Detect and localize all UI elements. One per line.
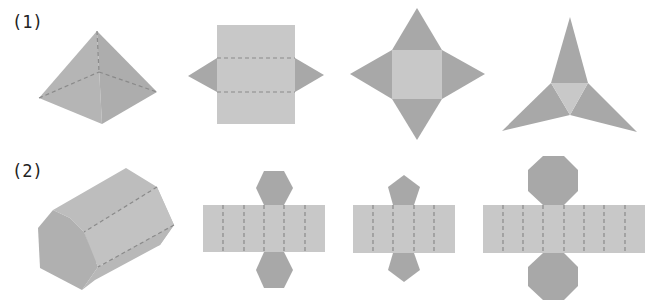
hexagonal-prism-solid: [38, 168, 174, 290]
net-square-four-triangles: [350, 8, 485, 140]
net-triangle-three-triangles: [502, 17, 637, 132]
square-pyramid-solid: [39, 31, 157, 124]
diagram-canvas: [0, 0, 646, 302]
net-octagonal-prism: [483, 156, 645, 300]
net-rectangle-two-triangles: [188, 25, 324, 124]
net-pentagonal-prism: [353, 175, 455, 282]
net-hexagonal-prism: [203, 171, 325, 288]
